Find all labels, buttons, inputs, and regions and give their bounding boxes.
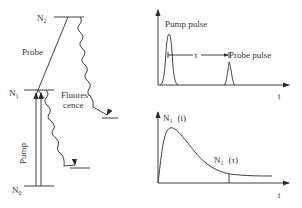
pump-fan-line bbox=[35, 90, 38, 98]
pump-pulse-label: Pump pulse bbox=[165, 19, 207, 29]
level-n1-label: N1 bbox=[9, 88, 19, 99]
population-curve-label: N1(t) bbox=[163, 113, 186, 124]
delay-label: τ bbox=[194, 50, 198, 60]
level-n0-label: N0 bbox=[12, 185, 22, 196]
pump-label: Pump bbox=[18, 142, 28, 164]
pump-pulse-curve bbox=[160, 34, 178, 85]
population-point-label: N1(τ) bbox=[214, 155, 238, 166]
probe-pulse-curve bbox=[224, 62, 235, 85]
level-n2-label: N2 bbox=[37, 13, 47, 24]
fluorescence-label-line1: Fluores- bbox=[61, 90, 91, 100]
population-plot-x-label: t bbox=[278, 190, 281, 200]
pump-probe-diagram: N2 N1 N0 Probe Pump Fluores- cence τ Pum… bbox=[0, 0, 302, 208]
probe-pulse-label: Probe pulse bbox=[229, 50, 271, 60]
probe-label: Probe bbox=[22, 47, 43, 57]
fluorescence-label-line2: cence bbox=[63, 100, 83, 110]
pulse-plot-x-label: t bbox=[278, 91, 281, 101]
